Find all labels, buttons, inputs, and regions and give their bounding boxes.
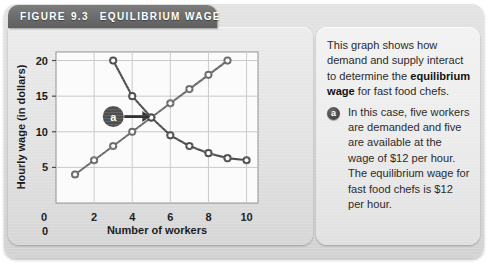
caption-intro: This graph shows how demand and supply i… xyxy=(327,38,471,100)
data-point-supply xyxy=(224,57,230,63)
x-tick-label: 8 xyxy=(205,211,211,223)
y-axis-ticks: 05101520 xyxy=(36,55,56,237)
annotation-letter-a: a xyxy=(110,111,117,123)
y-tick-label: 5 xyxy=(42,161,48,173)
plot-area-background xyxy=(56,52,258,203)
caption-panel: This graph shows how demand and supply i… xyxy=(316,27,480,245)
caption-bullet-a: a In this case, five workers are demande… xyxy=(327,105,471,213)
figure-header-prefix: FIGURE xyxy=(20,11,66,22)
x-tick-label: 0 xyxy=(41,211,47,223)
data-point-demand xyxy=(243,157,249,163)
data-point-demand xyxy=(186,143,192,149)
data-point-demand xyxy=(224,155,230,161)
figure-header-title: EQUILIBRIUM WAGE xyxy=(100,11,221,22)
data-point-supply xyxy=(110,143,116,149)
x-tick-label: 6 xyxy=(167,211,173,223)
data-point-supply xyxy=(129,129,135,135)
chart-panel: 05101520 0246810 a Number of workers Hou… xyxy=(8,27,313,245)
x-tick-label: 2 xyxy=(91,211,97,223)
data-point-supply xyxy=(167,100,173,106)
data-point-demand xyxy=(167,132,173,138)
figure-header-tab: FIGURE 9.3 EQUILIBRIUM WAGE xyxy=(8,5,217,28)
data-point-demand xyxy=(148,114,154,120)
y-tick-label: 20 xyxy=(36,55,48,67)
bullet-badge-a-icon: a xyxy=(327,107,340,120)
x-tick-label: 4 xyxy=(129,211,136,223)
data-point-supply xyxy=(205,72,211,78)
y-tick-label: 0 xyxy=(42,225,48,237)
equilibrium-wage-chart: 05101520 0246810 a Number of workers Hou… xyxy=(8,27,313,245)
caption-intro-after: for fast food chefs. xyxy=(355,85,449,97)
data-point-supply xyxy=(72,171,78,177)
y-axis-label: Hourly wage (in dollars) xyxy=(15,64,27,189)
data-point-supply xyxy=(91,157,97,163)
data-point-demand xyxy=(205,150,211,156)
y-tick-label: 10 xyxy=(36,126,48,138)
figure-header-number: 9.3 xyxy=(71,11,89,22)
y-tick-label: 15 xyxy=(36,90,48,102)
data-point-demand xyxy=(110,57,116,63)
data-point-demand xyxy=(129,93,135,99)
figure-equilibrium-wage: FIGURE 9.3 EQUILIBRIUM WAGE 05101520 024… xyxy=(0,0,488,265)
x-axis-ticks: 0246810 xyxy=(41,211,253,223)
data-point-supply xyxy=(186,86,192,92)
x-tick-label: 10 xyxy=(240,211,252,223)
x-axis-label: Number of workers xyxy=(107,224,207,236)
caption-bullet-text: In this case, five workers are demanded … xyxy=(348,105,471,213)
